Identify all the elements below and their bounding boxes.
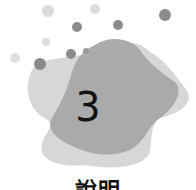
- step-number: 3: [70, 85, 106, 129]
- dot-icon: [90, 4, 100, 14]
- dot-icon: [159, 9, 171, 21]
- dot-icon: [42, 5, 54, 17]
- dot-icon: [66, 49, 76, 59]
- step-illustration: 3 說明: [0, 0, 196, 190]
- dot-icon: [113, 20, 123, 30]
- dot-icon: [42, 38, 50, 46]
- dot-icon: [34, 58, 46, 70]
- step-caption: 說明: [0, 180, 196, 190]
- dot-icon: [10, 53, 20, 63]
- dot-icon: [72, 22, 82, 32]
- dot-icon: [83, 48, 89, 54]
